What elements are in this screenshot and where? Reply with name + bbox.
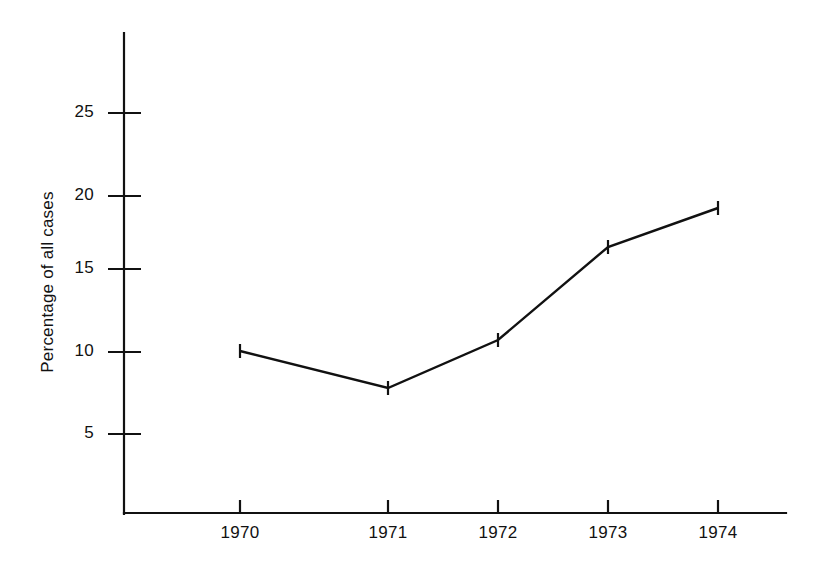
data-line-series-1 — [240, 208, 718, 388]
x-tick-label-1970: 1970 — [200, 523, 280, 543]
x-tick-label-1974: 1974 — [678, 523, 758, 543]
x-axis-ticks — [240, 500, 718, 513]
chart-figure: 25 20 15 10 5 1970 1971 1972 1973 1974 P… — [0, 0, 814, 576]
data-point-markers — [240, 201, 718, 395]
y-axis-title: Percentage of all cases — [38, 172, 58, 392]
x-tick-label-1971: 1971 — [348, 523, 428, 543]
x-tick-label-1972: 1972 — [458, 523, 538, 543]
y-tick-label-25: 25 — [48, 102, 94, 122]
y-tick-label-5: 5 — [48, 423, 94, 443]
x-tick-label-1973: 1973 — [568, 523, 648, 543]
line-chart-plot — [0, 0, 814, 576]
